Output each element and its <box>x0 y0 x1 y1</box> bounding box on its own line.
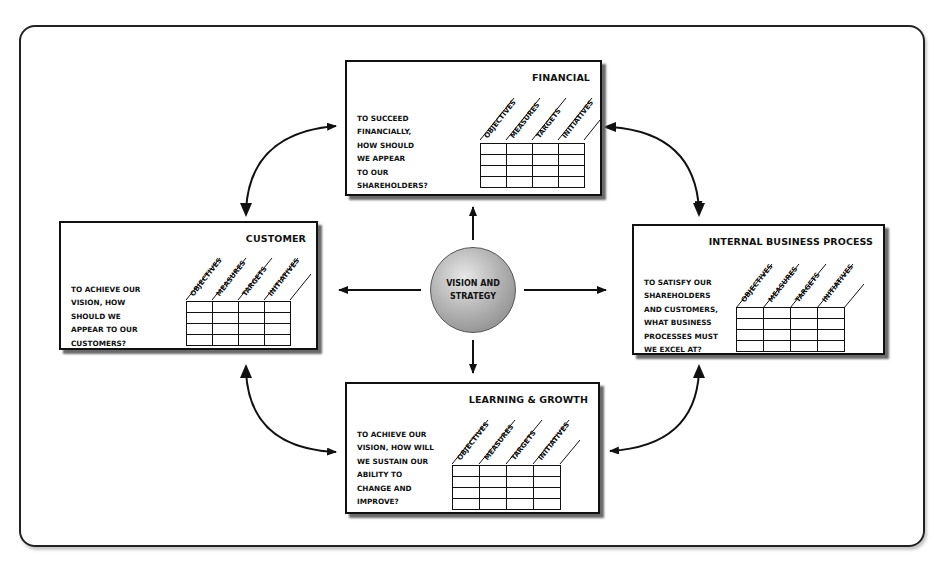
scorecard-grid: OBJECTIVES MEASURES TARGETS INITIATIVES <box>452 404 580 510</box>
curved-arrow-bottom-left-icon <box>246 372 336 452</box>
curved-arrow-top-left-icon <box>246 126 336 210</box>
vision-label: VISION AND STRATEGY <box>446 277 500 303</box>
perspective-question: TO SATISFY OUR SHAREHOLDERS AND CUSTOMER… <box>644 276 718 356</box>
perspective-financial: FINANCIAL TO SUCCEED FINANCIALLY, HOW SH… <box>345 60 602 196</box>
perspective-learning-growth: LEARNING & GROWTH TO ACHIEVE OUR VISION,… <box>345 382 600 514</box>
curved-arrow-top-right-icon <box>611 127 699 210</box>
scorecard-grid: OBJECTIVES MEASURES TARGETS INITIATIVES <box>186 240 311 346</box>
perspective-question: TO ACHIEVE OUR VISION, HOW WILL WE SUSTA… <box>357 428 434 508</box>
scorecard-table <box>186 301 291 346</box>
perspective-internal-business-process: INTERNAL BUSINESS PROCESS TO SATISFY OUR… <box>632 224 885 355</box>
perspective-question: TO SUCCEED FINANCIALLY, HOW SHOULD WE AP… <box>357 112 428 192</box>
scorecard-table <box>452 465 561 510</box>
scorecard-grid: OBJECTIVES MEASURES TARGETS INITIATIVES <box>480 82 600 188</box>
scorecard-table <box>736 307 845 352</box>
perspective-question: TO ACHIEVE OUR VISION, HOW SHOULD WE APP… <box>71 283 140 350</box>
scorecard-table <box>480 143 585 188</box>
vision-and-strategy-sphere: VISION AND STRATEGY <box>430 247 516 333</box>
perspective-customer: CUSTOMER TO ACHIEVE OUR VISION, HOW SHOU… <box>59 221 318 350</box>
curved-arrow-bottom-right-icon <box>610 372 699 451</box>
scorecard-grid: OBJECTIVES MEASURES TARGETS INITIATIVES <box>736 246 864 352</box>
